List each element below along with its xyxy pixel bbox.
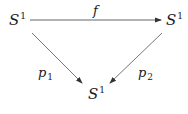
node-top-right-sup: 1 <box>177 11 183 21</box>
label-p1-sub: 1 <box>47 72 53 82</box>
label-p1: p1 <box>38 66 53 82</box>
arrow-p2 <box>110 33 162 83</box>
label-f: f <box>93 4 98 17</box>
commutative-diagram: S1 S1 S1 f p1 p2 <box>0 0 188 114</box>
label-p2-sub: 2 <box>147 72 153 82</box>
label-f-base: f <box>93 3 98 18</box>
label-p1-base: p <box>38 65 46 80</box>
label-p2: p2 <box>138 66 153 82</box>
node-top-right-base: S <box>166 11 176 29</box>
node-top-left-sup: 1 <box>20 11 26 21</box>
label-p2-base: p <box>138 65 146 80</box>
node-top-left-base: S <box>9 11 19 29</box>
node-top-left: S1 <box>9 12 26 28</box>
node-bottom-sup: 1 <box>99 85 105 95</box>
node-top-right: S1 <box>166 12 183 28</box>
node-bottom: S1 <box>88 86 105 102</box>
node-bottom-base: S <box>88 85 98 103</box>
